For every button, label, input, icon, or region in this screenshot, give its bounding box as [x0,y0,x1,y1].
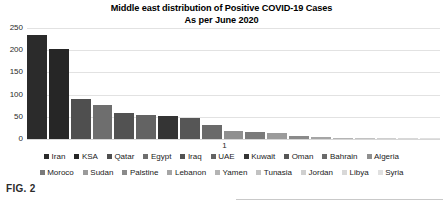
y-axis: 050100150200250 [0,28,26,143]
bar-tunasia [355,138,375,139]
legend-item-oman[interactable]: Oman [284,152,313,161]
bar-yamen [333,138,353,139]
figure-container: Middle east distribution of Positive COV… [0,0,443,202]
legend-item-egypt[interactable]: Egypt [143,152,171,161]
legend-swatch-icon [122,170,127,175]
legend-label: Algeria [374,152,399,161]
legend-swatch-icon [322,154,327,159]
bar-iran [27,35,47,139]
bar-jordan [377,138,397,139]
legend-label: KSA [82,152,98,161]
y-axis-tick-label: 50 [14,113,23,121]
bar-kuwait [158,116,178,139]
legend-label: Tunasia [264,168,292,177]
legend-label: Lebanon [175,168,206,177]
legend-item-algeria[interactable]: Algeria [367,152,399,161]
legend-item-uae[interactable]: UAE [211,152,235,161]
legend-label: Sudan [90,168,113,177]
legend-swatch-icon [378,170,383,175]
legend-label: Iran [52,152,66,161]
legend-swatch-icon [74,154,79,159]
bar-qatar [71,99,91,139]
legend-item-qatar[interactable]: Qatar [107,152,135,161]
bar-palstine [289,136,309,139]
legend-swatch-icon [256,170,261,175]
bar-uae [136,115,156,139]
legend-swatch-icon [143,154,148,159]
figure-caption: FIG. 2 [6,183,36,194]
legend-label: Moroco [47,168,74,177]
chart-plot-area: 050100150200250 1 [0,28,443,143]
bar-series [27,28,440,139]
bar-lebanon [311,137,331,139]
legend-item-kuwait[interactable]: Kuwait [244,152,276,161]
legend-item-yamen[interactable]: Yamen [215,168,247,177]
legend-row-2: MorocoSudanPalstineLebanonYamenTunasiaJo… [0,164,443,180]
bar-bahrain [202,125,222,139]
legend-label: UAE [218,152,234,161]
legend-item-ksa[interactable]: KSA [74,152,98,161]
legend-swatch-icon [301,170,306,175]
bar-moroco [245,132,265,139]
legend-swatch-icon [211,154,216,159]
bar-iraq [114,113,134,139]
page-hairline [236,199,443,200]
legend-label: Qatar [114,152,134,161]
legend-label: Oman [292,152,314,161]
chart-title-line-1: Middle east distribution of Positive COV… [0,2,443,14]
legend-row-1: IranKSAQatarEgyptIraqUAEKuwaitOmanBahrai… [0,148,443,164]
bar-egypt [93,105,113,139]
legend-item-libya[interactable]: Libya [342,168,369,177]
bar-syria [420,138,440,139]
legend-item-moroco[interactable]: Moroco [40,168,74,177]
legend-label: Syria [385,168,403,177]
legend-swatch-icon [215,170,220,175]
legend-swatch-icon [44,154,49,159]
legend-label: Jordan [309,168,333,177]
legend-label: Kuwait [251,152,275,161]
legend-label: Iraq [188,152,202,161]
chart-legend: IranKSAQatarEgyptIraqUAEKuwaitOmanBahrai… [0,148,443,180]
bar-sudan [267,133,287,139]
legend-label: Libya [350,168,369,177]
legend-item-sudan[interactable]: Sudan [83,168,114,177]
chart-title: Middle east distribution of Positive COV… [0,2,443,26]
chart-title-line-2: As per June 2020 [0,14,443,26]
legend-item-lebanon[interactable]: Lebanon [167,168,206,177]
legend-item-syria[interactable]: Syria [378,168,404,177]
legend-item-palstine[interactable]: Palstine [122,168,158,177]
legend-label: Yamen [223,168,248,177]
y-axis-tick-label: 150 [10,68,23,76]
legend-label: Palstine [130,168,158,177]
y-axis-tick-label: 200 [10,46,23,54]
legend-label: Egypt [151,152,171,161]
legend-item-iran[interactable]: Iran [44,152,65,161]
bar-ksa [49,49,69,139]
y-axis-tick-label: 250 [10,24,23,32]
legend-swatch-icon [167,170,172,175]
bar-libya [398,138,418,139]
legend-swatch-icon [284,154,289,159]
legend-swatch-icon [180,154,185,159]
bar-oman [180,118,200,139]
legend-item-bahrain[interactable]: Bahrain [322,152,357,161]
y-axis-tick-label: 0 [19,135,23,143]
legend-swatch-icon [107,154,112,159]
bar-algeria [224,131,244,139]
legend-swatch-icon [40,170,45,175]
legend-swatch-icon [83,170,88,175]
legend-item-tunasia[interactable]: Tunasia [256,168,292,177]
y-axis-tick-label: 100 [10,91,23,99]
legend-swatch-icon [342,170,347,175]
legend-label: Bahrain [330,152,358,161]
legend-swatch-icon [367,154,372,159]
axis-baseline [27,139,440,140]
legend-swatch-icon [244,154,249,159]
legend-item-iraq[interactable]: Iraq [180,152,201,161]
legend-item-jordan[interactable]: Jordan [301,168,333,177]
bar-plot: 1 [27,28,440,139]
